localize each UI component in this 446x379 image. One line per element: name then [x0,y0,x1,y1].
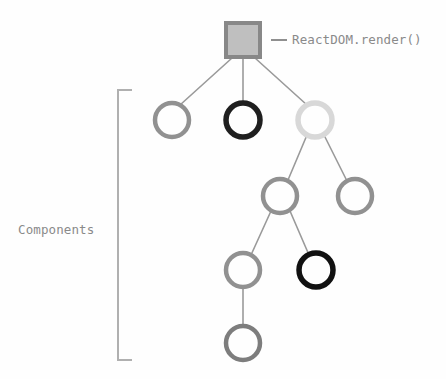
edge-root-n3 [255,58,307,105]
component-node-n4[interactable] [263,179,297,213]
components-bracket [118,90,132,360]
diagram-canvas: ReactDOM.render() Components [0,0,446,379]
edge-n4-n6 [251,211,271,255]
component-node-n6[interactable] [226,253,260,287]
node-group [155,103,372,360]
diagram-svg [0,0,446,379]
edge-n3-n5 [324,135,347,181]
root-node-label: ReactDOM.render() [292,32,422,47]
component-node-n3[interactable] [298,103,332,137]
component-node-n2[interactable] [226,103,260,137]
root-square-node[interactable] [226,23,260,57]
edge-n3-n4 [288,135,307,180]
edge-n4-n7 [290,211,309,255]
edge-root-n1 [180,58,232,105]
component-node-n1[interactable] [155,103,189,137]
component-node-n8[interactable] [226,326,260,360]
components-bracket-label: Components [18,222,94,237]
component-node-n5[interactable] [338,179,372,213]
component-node-n7[interactable] [299,253,333,287]
